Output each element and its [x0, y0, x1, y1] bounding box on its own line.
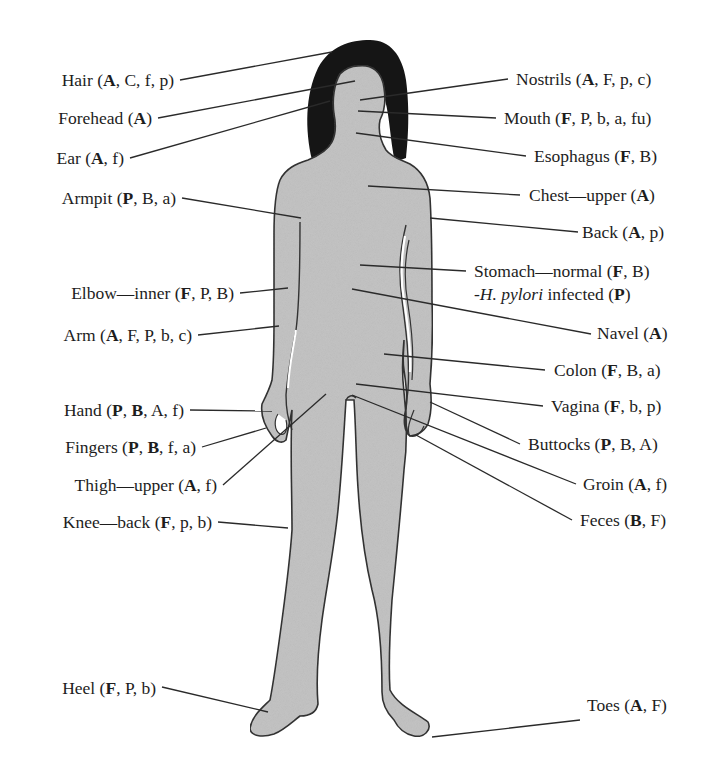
- body-shape: [250, 66, 432, 737]
- label-back: Back (A, p): [582, 222, 664, 242]
- leader-fingers: [202, 428, 266, 447]
- leader-toes: [432, 720, 580, 737]
- label-vagina: Vagina (F, b, p): [551, 396, 661, 416]
- leader-hair: [180, 52, 332, 80]
- label-fingers: Fingers (P, B, f, a): [65, 437, 196, 457]
- label-navel: Navel (A): [597, 323, 667, 343]
- label-knee-back: Knee—back (F, p, b): [63, 512, 212, 532]
- leader-arm: [198, 326, 279, 335]
- label-hand: Hand (P, B, A, f): [64, 400, 184, 420]
- leader-heel: [162, 687, 268, 712]
- label-ear: Ear (A, f): [56, 148, 124, 168]
- label-stomach-normal: Stomach—normal (F, B): [474, 261, 649, 281]
- leader-buttocks: [430, 402, 520, 444]
- label-colon: Colon (F, B, a): [554, 360, 660, 380]
- label-toes: Toes (A, F): [587, 695, 667, 715]
- label-forehead: Forehead (A): [58, 108, 152, 128]
- label-groin: Groin (A, f): [583, 474, 667, 494]
- label-arm: Arm (A, F, P, b, c): [64, 325, 192, 345]
- label-armpit: Armpit (P, B, a): [62, 188, 176, 208]
- label-thigh-upper: Thigh—upper (A, f): [75, 475, 217, 495]
- leader-back: [430, 218, 578, 232]
- label-stomach-h-pylori: -H. pylori infected (P): [474, 284, 631, 304]
- leader-knee: [218, 522, 288, 528]
- label-elbow-inner: Elbow—inner (F, P, B): [71, 283, 234, 303]
- label-buttocks: Buttocks (P, B, A): [528, 434, 658, 454]
- label-feces: Feces (B, F): [580, 510, 666, 530]
- leader-ear: [130, 101, 330, 158]
- label-esophagus: Esophagus (F, B): [534, 146, 657, 166]
- body-microbiota-diagram: Hair (A, C, f, p) Forehead (A) Ear (A, f…: [0, 0, 719, 778]
- label-chest-upper: Chest—upper (A): [529, 185, 655, 205]
- leader-hand: [190, 410, 272, 411]
- label-hair: Hair (A, C, f, p): [62, 70, 174, 90]
- label-mouth: Mouth (F, P, b, a, fu): [504, 108, 651, 128]
- label-heel: Heel (F, P, b): [62, 678, 156, 698]
- label-nostrils: Nostrils (A, F, p, c): [516, 69, 651, 89]
